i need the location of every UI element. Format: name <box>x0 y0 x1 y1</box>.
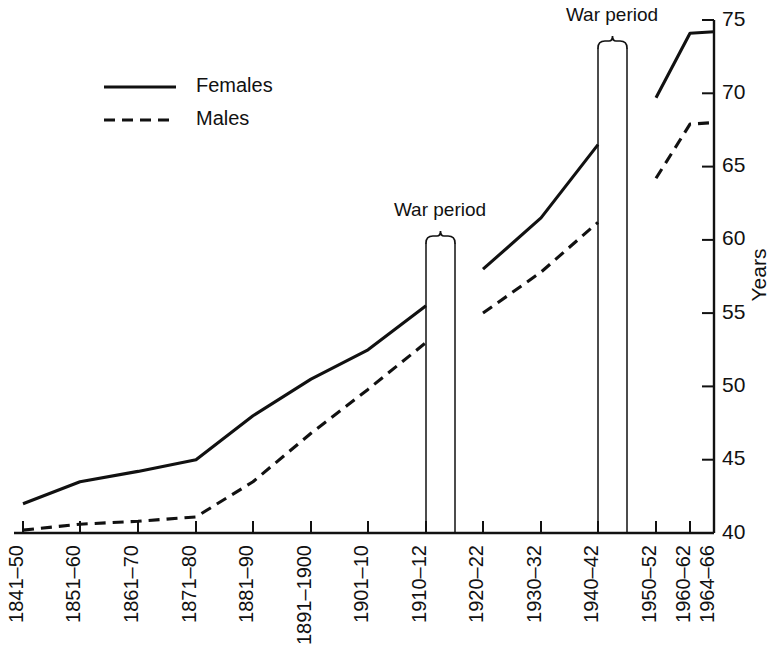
legend-item-females: Females <box>104 74 273 96</box>
y-tick-label-60: 60 <box>722 226 745 249</box>
x-tick-label-1930-32: 1930–32 <box>523 545 545 623</box>
legend-item-males: Males <box>104 107 249 129</box>
data-series-group <box>23 32 714 530</box>
legend-label-females: Females <box>196 74 273 96</box>
war-period-brace-1 <box>426 231 455 243</box>
war-period-break-rules <box>426 48 627 533</box>
y-axis-title: Years <box>747 249 770 302</box>
y-tick-label-65: 65 <box>722 153 745 176</box>
war-period-label-1: War period <box>394 199 486 220</box>
x-tick-label-1881-90: 1881–90 <box>235 545 257 623</box>
x-tick-label-1920-22: 1920–22 <box>465 545 487 623</box>
legend-label-males: Males <box>196 107 249 129</box>
series-line-females <box>23 32 714 504</box>
y-tick-label-55: 55 <box>722 300 745 323</box>
x-tick-label-1861-70: 1861–70 <box>120 545 142 623</box>
y-tick-label-75: 75 <box>722 7 745 30</box>
x-tick-label-1964-66: 1964–66 <box>696 545 718 623</box>
x-tick-label-1841-50: 1841–50 <box>5 545 27 623</box>
axes-group <box>14 20 714 533</box>
x-tick-label-1891-1900: 1891–1900 <box>293 545 315 645</box>
war-period-label-2: War period <box>566 4 658 25</box>
war-period-annotation-2: War period <box>566 4 658 48</box>
war-period-brace-2 <box>598 36 627 48</box>
war-period-annotation-1: War period <box>394 199 486 243</box>
x-tick-label-1940-42: 1940–42 <box>580 545 602 623</box>
x-tick-label-1901-10: 1901–10 <box>350 545 372 623</box>
life-expectancy-line-chart: 40 45 50 55 60 65 70 75 Years <box>0 0 778 649</box>
x-tick-label-1950-52: 1950–52 <box>638 545 660 623</box>
x-axis-ticks <box>23 521 714 533</box>
x-axis-tick-labels: 1841–50 1851–60 1861–70 1871–80 1881–90 … <box>5 545 718 645</box>
y-tick-label-50: 50 <box>722 373 745 396</box>
chart-container: 40 45 50 55 60 65 70 75 Years <box>0 0 778 649</box>
x-tick-label-1910-12: 1910–12 <box>408 545 430 623</box>
y-tick-label-70: 70 <box>722 80 745 103</box>
chart-legend: Females Males <box>104 74 273 129</box>
series-line-males <box>23 123 714 530</box>
y-tick-label-40: 40 <box>722 520 745 543</box>
y-axis-ticks: 40 45 50 55 60 65 70 75 <box>702 7 745 543</box>
x-tick-label-1871-80: 1871–80 <box>178 545 200 623</box>
y-tick-label-45: 45 <box>722 446 745 469</box>
x-tick-label-1960-62: 1960–62 <box>672 545 694 623</box>
x-tick-label-1851-60: 1851–60 <box>62 545 84 623</box>
